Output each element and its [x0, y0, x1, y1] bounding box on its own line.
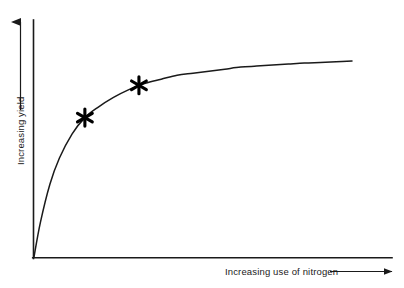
- chart-container: Increasing yield Increasing use of nitro…: [0, 0, 404, 288]
- yield-curve-path: [34, 61, 352, 257]
- asterisk-marker-icon-2: [132, 77, 147, 94]
- x-axis-label: Increasing use of nitrogen: [225, 266, 338, 277]
- curve-markers-group: [77, 77, 146, 126]
- y-axis-label: Increasing yield: [15, 97, 26, 165]
- data-series-yield-curve: [34, 61, 352, 257]
- x-axis-label-group: Increasing use of nitrogen: [225, 266, 392, 277]
- chart-canvas: Increasing yield Increasing use of nitro…: [0, 0, 404, 288]
- y-axis-label-group: Increasing yield: [15, 22, 26, 165]
- axes-group: [33, 20, 392, 259]
